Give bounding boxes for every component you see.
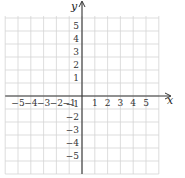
y-tick-label: −3 [66, 125, 80, 135]
x-tick-label: 5 [143, 98, 149, 108]
x-tick-label: 1 [92, 98, 98, 108]
x-tick-label: −4 [24, 98, 38, 108]
y-tick-label: 3 [73, 47, 79, 57]
y-tick-label: −1 [66, 99, 79, 109]
y-tick-label: −2 [66, 112, 79, 122]
x-tick-labels: −5−4−3−2−112345 [11, 98, 149, 108]
x-axis-label: x [167, 94, 174, 107]
x-tick-label: −2 [50, 98, 63, 108]
y-tick-label: 2 [73, 60, 79, 70]
y-axis-label: y [70, 0, 78, 13]
y-tick-label: −5 [66, 151, 80, 161]
y-tick-label: 4 [73, 34, 79, 44]
y-tick-label: 1 [73, 73, 79, 83]
coordinate-plane: −5−4−3−2−112345 54321−1−2−3−4−5 x y [0, 0, 185, 178]
x-tick-label: −3 [37, 98, 51, 108]
y-tick-label: −4 [66, 138, 80, 148]
x-tick-label: −5 [11, 98, 25, 108]
y-tick-label: 5 [73, 21, 79, 31]
y-tick-labels: 54321−1−2−3−4−5 [66, 21, 80, 161]
x-tick-label: 3 [118, 98, 124, 108]
x-tick-label: 4 [130, 98, 136, 108]
x-tick-label: 2 [105, 98, 111, 108]
